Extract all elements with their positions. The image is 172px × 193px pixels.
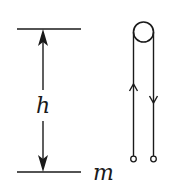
rope-right [150, 32, 158, 162]
rope-left [130, 32, 138, 162]
terminal-left-icon [131, 156, 137, 162]
height-label: h [36, 93, 50, 118]
terminal-right-icon [151, 156, 157, 162]
mass-label: m [93, 160, 114, 185]
diagram-canvas [0, 0, 172, 193]
pulley-icon [134, 22, 154, 42]
